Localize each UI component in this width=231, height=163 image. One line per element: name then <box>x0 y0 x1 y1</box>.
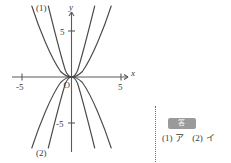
graph-figure: x y O -5 5 5 -5 (1) (2) <box>0 0 152 163</box>
curve-label-2: (2) <box>36 148 47 158</box>
answer-item-1: (1) ア <box>162 133 184 143</box>
answer-item-2: (2) イ <box>192 133 214 143</box>
answer-item-1-number: (1) <box>162 133 173 143</box>
y-axis-label: y <box>68 2 73 12</box>
x-tick-label-5: 5 <box>118 82 123 92</box>
x-tick-label-neg5: -5 <box>16 82 24 92</box>
origin-label: O <box>64 80 71 90</box>
curve-label-1: (1) <box>36 3 47 13</box>
answer-item-2-number: (2) <box>192 133 203 143</box>
dotted-divider <box>155 106 156 162</box>
answer-badge: 答 <box>168 118 196 129</box>
answer-panel: 答 (1) ア (2) イ <box>152 104 231 163</box>
answer-item-2-choice: イ <box>206 133 215 143</box>
answer-item-1-choice: ア <box>175 133 184 143</box>
y-tick-label-5: 5 <box>60 27 65 37</box>
coordinate-plane-svg: x y O -5 5 5 -5 (1) (2) <box>0 0 152 163</box>
x-axis-label: x <box>130 68 135 78</box>
y-tick-label-neg5: -5 <box>56 119 64 129</box>
answer-list: (1) ア (2) イ <box>162 132 231 144</box>
